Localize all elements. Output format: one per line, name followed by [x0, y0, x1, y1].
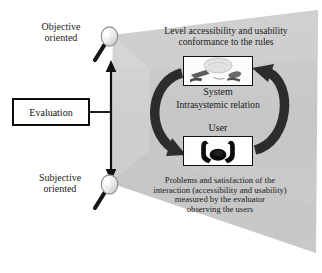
top-description-text: Level accessibility and usability confor…: [140, 26, 312, 47]
user-image-box: [183, 136, 253, 166]
magnifying-glass-icon: [95, 175, 118, 208]
user-label: User: [178, 122, 258, 133]
computer-keyboard-icon: [184, 57, 252, 85]
evaluation-label: Evaluation: [29, 107, 72, 118]
subjective-oriented-label: Subjective oriented: [24, 172, 96, 194]
intrasystemic-relation-label: Intrasystemic relation: [152, 100, 284, 111]
system-image-box: [183, 56, 253, 86]
person-silhouette-icon: [184, 137, 252, 165]
bottom-description-text: Problems and satisfaction of the interac…: [130, 176, 310, 215]
system-label: System: [178, 86, 258, 97]
objective-oriented-label: Objective oriented: [26, 21, 96, 43]
evaluation-box: Evaluation: [12, 98, 90, 126]
diagram-canvas: Evaluation Objective oriented Subjective…: [0, 0, 322, 273]
